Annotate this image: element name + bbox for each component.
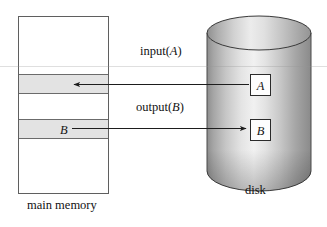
output-label-arg: B (172, 100, 180, 114)
memory-disk-diagram: input(A) output(B) B A B main memory dis… (0, 0, 327, 227)
memory-block-a-fill (19, 74, 108, 93)
disk-block-b-label: B (250, 124, 271, 139)
scanline-artifact (0, 66, 327, 67)
disk-cylinder (207, 16, 311, 191)
cylinder-top-ellipse (207, 16, 311, 50)
input-label-prefix: input( (140, 44, 170, 58)
output-label-suffix: ) (180, 100, 184, 114)
output-label-prefix: output( (136, 100, 172, 114)
disk-block-a-label: A (250, 79, 271, 94)
memory-block-b-label: B (60, 123, 68, 138)
output-operation-label: output(B) (136, 101, 184, 114)
memory-outline (19, 17, 109, 194)
disk-caption: disk (245, 184, 266, 197)
main-memory-rect (19, 17, 109, 194)
input-label-arg: A (170, 44, 178, 58)
main-memory-caption: main memory (27, 199, 97, 212)
input-label-suffix: ) (178, 44, 182, 58)
input-operation-label: input(A) (140, 45, 182, 58)
